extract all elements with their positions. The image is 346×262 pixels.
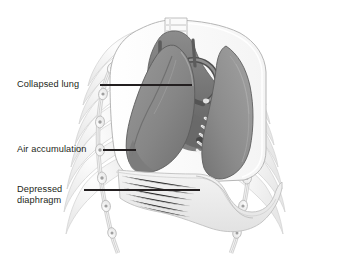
- label-collapsed-lung: Collapsed lung: [17, 79, 79, 90]
- illustration-canvas: Collapsed lung Air accumulation Depresse…: [0, 0, 346, 262]
- label-air-accumulation: Air accumulation: [17, 144, 87, 155]
- thorax-illustration: [0, 0, 346, 262]
- label-depressed-diaphragm: Depressed diaphragm: [17, 184, 62, 207]
